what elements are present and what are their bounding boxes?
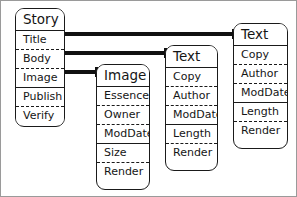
entity-text-top-attr-moddate: ModDate xyxy=(234,83,287,102)
entity-text-middle-attr-author: Author xyxy=(166,86,217,105)
entity-story-attr-title: Title xyxy=(16,30,64,49)
entity-image-attr-size: Size xyxy=(97,143,149,162)
entity-text-top[interactable]: Text Copy Author ModDate Length Render xyxy=(233,23,288,149)
entity-story[interactable]: Story Title Body Image Publish Verify xyxy=(15,8,65,127)
entity-text-middle-title: Text xyxy=(166,46,217,67)
entity-image-attr-moddate: ModDate xyxy=(97,124,149,143)
connector-title-to-text-top xyxy=(63,32,235,36)
diagram-canvas: Story Title Body Image Publish Verify Im… xyxy=(0,0,297,197)
connector-image-to-image-box xyxy=(63,70,98,74)
entity-image-attr-owner: Owner xyxy=(97,105,149,124)
entity-text-top-attr-render: Render xyxy=(234,121,287,140)
entity-image-title: Image xyxy=(97,65,149,86)
entity-story-attr-publish: Publish xyxy=(16,87,64,106)
entity-story-attr-body: Body xyxy=(16,49,64,68)
entity-story-attr-image: Image xyxy=(16,68,64,87)
entity-text-middle-attr-render: Render xyxy=(166,143,217,162)
entity-text-top-attr-author: Author xyxy=(234,64,287,83)
entity-text-middle-attr-moddate: ModDate xyxy=(166,105,217,124)
entity-text-top-title: Text xyxy=(234,24,287,45)
entity-text-top-attr-copy: Copy xyxy=(234,45,287,64)
entity-text-middle-attr-length: Length xyxy=(166,124,217,143)
entity-story-title: Story xyxy=(16,9,64,30)
connector-body-to-text-middle xyxy=(63,51,167,55)
entity-text-top-attr-length: Length xyxy=(234,102,287,121)
entity-image[interactable]: Image Essence Owner ModDate Size Render xyxy=(96,64,150,190)
entity-image-attr-render: Render xyxy=(97,162,149,181)
entity-story-attr-verify: Verify xyxy=(16,106,64,125)
entity-text-middle-attr-copy: Copy xyxy=(166,67,217,86)
entity-image-attr-essence: Essence xyxy=(97,86,149,105)
entity-text-middle[interactable]: Text Copy Author ModDate Length Render xyxy=(165,45,218,171)
